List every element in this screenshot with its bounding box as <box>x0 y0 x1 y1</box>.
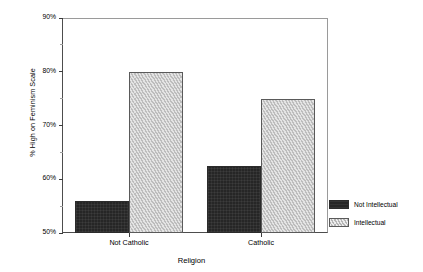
y-tick-label: 60% <box>20 174 56 181</box>
y-axis-title: % High on Feminism Scale <box>28 33 37 193</box>
chart-legend: Not IntellectualIntellectual <box>329 198 423 234</box>
bars-layer <box>63 18 327 233</box>
x-category-label: Catholic <box>201 238 321 247</box>
x-category-label: Not Catholic <box>69 238 189 247</box>
bar-catholic-intellectual <box>261 99 315 233</box>
legend-label: Intellectual <box>354 219 386 226</box>
y-tick-label: 80% <box>20 67 56 74</box>
bar-catholic-not-intellectual <box>207 166 261 233</box>
legend-item-intellectual[interactable]: Intellectual <box>329 216 423 229</box>
legend-swatch <box>329 218 349 227</box>
legend-label: Not Intellectual <box>354 201 398 208</box>
x-category-tick <box>129 233 130 237</box>
bar-not-catholic-not-intellectual <box>75 201 129 233</box>
x-category-tick <box>261 233 262 237</box>
bar-not-catholic-intellectual <box>129 72 183 233</box>
x-axis-title: Religion <box>55 256 328 265</box>
y-tick-label: 90% <box>20 13 56 20</box>
y-tick-label: 50% <box>20 228 56 235</box>
y-tick-label: 70% <box>20 121 56 128</box>
legend-swatch <box>329 200 349 209</box>
bar-chart: % High on Feminism Scale 50%60%70%80%90%… <box>0 0 423 272</box>
legend-item-not-intellectual[interactable]: Not Intellectual <box>329 198 423 211</box>
